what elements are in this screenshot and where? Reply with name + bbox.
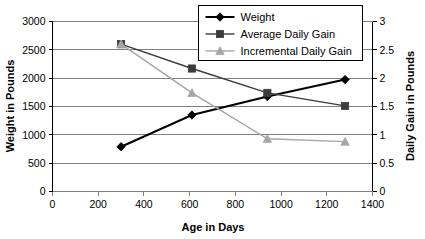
y2-tick-label: 2 [380,72,386,84]
y-tick-label: 500 [28,157,46,169]
x-tick-label: 1400 [361,198,385,210]
x-tick-label: 1000 [269,198,293,210]
y-tick-label: 3000 [22,15,46,27]
chart-canvas: 05001000150020002500300000.511.522.53020… [0,0,425,239]
data-point-diamond [188,111,196,119]
y2-tick-label: 1 [380,129,386,141]
data-point-square [264,89,271,96]
data-point-diamond [341,75,349,83]
data-point-triangle [188,89,196,97]
data-point-diamond [117,143,125,151]
y2-tick-label: 3 [380,15,386,27]
y-tick-label: 2000 [22,72,46,84]
legend-label: Incremental Daily Gain [241,45,352,57]
x-tick-label: 400 [135,198,153,210]
chart-container: 05001000150020002500300000.511.522.53020… [0,0,425,239]
series-line [121,80,345,147]
y2-tick-label: 0 [380,185,386,197]
y2-axis-title: Daily Gain in Pounds [404,51,416,161]
y2-tick-label: 1.5 [380,100,395,112]
legend: WeightAverage Daily GainIncremental Dail… [199,6,363,61]
x-tick-label: 200 [89,198,107,210]
x-tick-label: 0 [50,198,56,210]
y-tick-label: 0 [40,185,46,197]
series-weight [117,75,349,151]
data-point-square [341,102,348,109]
legend-marker-square [216,30,223,37]
legend-label: Weight [241,11,275,23]
y-axis-title: Weight in Pounds [4,60,16,153]
x-tick-label: 600 [181,198,199,210]
x-tick-label: 800 [227,198,245,210]
y-tick-label: 1000 [22,129,46,141]
x-tick-label: 1200 [315,198,339,210]
y-tick-label: 1500 [22,100,46,112]
y2-tick-label: 0.5 [380,157,395,169]
y2-tick-label: 2.5 [380,44,395,56]
y-tick-label: 2500 [22,44,46,56]
x-axis-title: Age in Days [182,221,245,233]
legend-label: Average Daily Gain [241,28,336,40]
data-point-square [188,65,195,72]
